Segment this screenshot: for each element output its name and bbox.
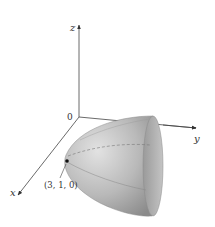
point-leader-line [60, 164, 66, 178]
y-axis-label: y [193, 133, 200, 144]
paraboloid-opening [143, 116, 163, 216]
z-axis-label: z [69, 22, 76, 33]
paraboloid-diagram: z y x 0 (3, 1, 0) [0, 0, 215, 227]
point-label: (3, 1, 0) [44, 180, 78, 190]
origin-label: 0 [67, 112, 73, 122]
y-axis-front [163, 125, 196, 128]
point-marker [65, 159, 69, 163]
x-axis-label: x [10, 187, 16, 198]
